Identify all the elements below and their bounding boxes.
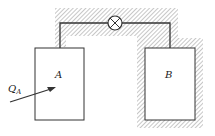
tank-a xyxy=(35,48,84,120)
tank-b xyxy=(145,48,195,120)
two-tank-diagram: A B QA xyxy=(0,0,215,136)
heat-symbol: Q xyxy=(8,83,16,94)
valve-icon xyxy=(108,16,122,30)
tank-b-label: B xyxy=(164,69,172,80)
heat-subscript: A xyxy=(15,88,21,96)
heat-label: QA xyxy=(8,83,21,96)
tank-a-label: A xyxy=(54,69,62,80)
